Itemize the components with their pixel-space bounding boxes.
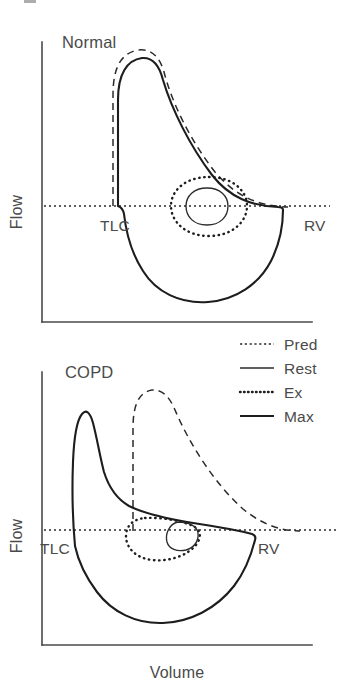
normal-y-axis-label: Flow [8, 194, 25, 229]
normal-rest-loop [186, 188, 228, 225]
flow-volume-figure: Normal TLC RV Flow COPD TLC RV Flow [0, 0, 362, 696]
legend-item-pred: Pred [240, 336, 318, 353]
legend-item-rest: Rest [240, 360, 317, 377]
copd-rest-loop [166, 522, 198, 551]
copd-y-axis-label: Flow [8, 518, 25, 553]
normal-rv-label: RV [304, 217, 326, 234]
legend-label-pred: Pred [284, 336, 318, 353]
panel-normal: Normal TLC RV Flow [8, 33, 330, 322]
legend-label-rest: Rest [284, 360, 317, 377]
copd-max-curve [73, 412, 256, 623]
copd-rv-label: RV [258, 540, 280, 557]
legend-item-ex: Ex [240, 384, 303, 401]
legend-label-ex: Ex [284, 384, 303, 401]
legend-item-max: Max [240, 408, 314, 425]
copd-pred-curve [133, 390, 300, 531]
normal-tlc-label: TLC [100, 217, 130, 234]
normal-panel-title: Normal [62, 33, 116, 51]
copd-tlc-label: TLC [40, 540, 70, 557]
normal-max-curve [118, 58, 283, 302]
copd-x-axis-label: Volume [150, 664, 205, 681]
copd-panel-title: COPD [65, 363, 113, 381]
legend-label-max: Max [284, 408, 314, 425]
scan-artifact [24, 0, 36, 3]
legend: Pred Rest Ex Max [240, 336, 318, 425]
normal-pred-curve [113, 50, 288, 207]
